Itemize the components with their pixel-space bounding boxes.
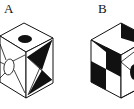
cube-b bbox=[91, 23, 134, 98]
cubes-figure bbox=[0, 0, 134, 109]
cube-a bbox=[0, 23, 53, 98]
cube-a-top-ellipse-icon bbox=[18, 35, 32, 43]
